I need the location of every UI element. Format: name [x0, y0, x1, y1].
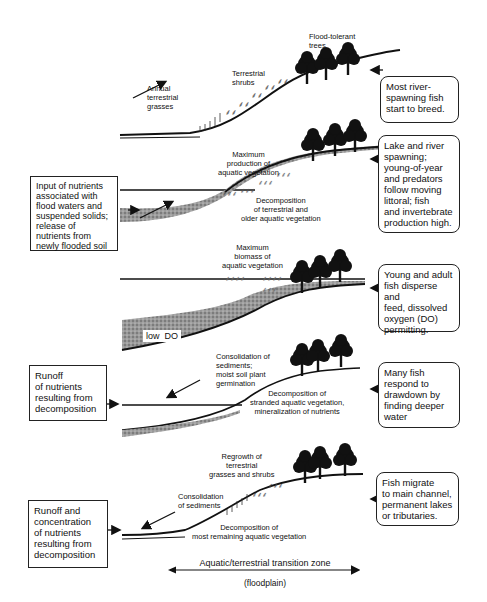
- svg-text:⸙⸙⸙: ⸙⸙⸙: [240, 187, 255, 195]
- svg-text:⸙⸙: ⸙⸙: [225, 108, 237, 117]
- note-runoff-nutrients: Runoff of nutrients resulting from decom…: [29, 365, 107, 421]
- label-max-biomass: Maximum biomass of aquatic vegetation: [222, 243, 283, 270]
- svg-text:⸙⸙⸙: ⸙⸙⸙: [222, 190, 237, 198]
- svg-text:⸙⸙⸙: ⸙⸙⸙: [258, 179, 273, 187]
- label-consolidation-sediments: Consolidation of sediments: [178, 492, 223, 510]
- svg-text:⸙⸙⸙: ⸙⸙⸙: [268, 482, 283, 490]
- note-panel-4: Many fish respond to drawdown by finding…: [378, 362, 460, 428]
- label-decomposition-stranded: Decomposition of stranded aquatic vegeta…: [250, 389, 344, 416]
- note-runoff-concentration: Runoff and concentration of nutrients re…: [28, 500, 108, 568]
- svg-text:⸙⸙⸙: ⸙⸙⸙: [252, 491, 267, 499]
- svg-text:⸙⸙: ⸙⸙: [251, 91, 263, 100]
- label-consolidation-germination: Consolidation of sediments; moist soil p…: [216, 352, 270, 388]
- svg-text:⸙⸙: ⸙⸙: [264, 83, 276, 92]
- svg-text:⸙⸙: ⸙⸙: [238, 100, 250, 109]
- note-panel-2: Lake and river spawning; young-of-year a…: [378, 135, 460, 233]
- label-decomposition-remaining: Decomposition of most remaining aquatic …: [192, 523, 306, 541]
- note-panel-5: Fish migrate to main channel, permanent …: [376, 472, 459, 526]
- note-panel-1: Most river- spawning fish start to breed…: [380, 76, 459, 123]
- note-nutrient-input: Input of nutrients associated with flood…: [30, 176, 118, 251]
- axis-label-transition-zone: Aquatic/terrestrial transition zone: [170, 558, 360, 568]
- svg-text:⸙⸙⸙: ⸙⸙⸙: [262, 286, 277, 294]
- label-terrestrial-shrubs: Terrestrial shrubs: [232, 69, 265, 87]
- svg-text:⸙⸙⸙⸙: ⸙⸙⸙⸙: [225, 275, 245, 283]
- label-low-do: low DO: [143, 330, 181, 342]
- note-panel-3: Young and adult fish disperse and feed, …: [378, 264, 460, 332]
- label-regrowth: Regrowth of terrestrial grasses and shru…: [209, 452, 274, 479]
- label-flood-tolerant-trees: Flood-tolerant trees: [309, 32, 355, 50]
- axis-sublabel-floodplain: (floodplain): [170, 578, 360, 588]
- label-max-production: Maximum production of aquatic vegetation: [218, 150, 279, 177]
- svg-text:⸙⸙⸙⸙: ⸙⸙⸙⸙: [262, 275, 282, 283]
- svg-text:⸙⸙: ⸙⸙: [277, 77, 289, 86]
- label-annual-grasses: Annual terrestrial grasses: [147, 84, 178, 111]
- label-decomposition-terrestrial: Decomposition of terrestrial and older a…: [241, 196, 321, 223]
